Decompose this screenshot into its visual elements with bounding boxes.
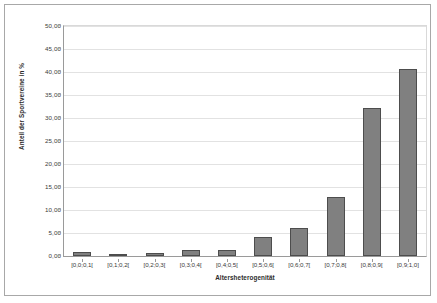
x-axis-tick-label: [0,5;0,6[ [245,261,281,268]
gridline [64,95,426,96]
bar [146,253,164,256]
bar [399,69,417,256]
y-axis-tick-mark [58,186,61,187]
bar [327,197,345,256]
x-axis-tick-label: [0,1;0,2[ [100,261,136,268]
y-axis-tick-label: 50,00 [9,22,61,29]
y-axis-tick-label: 40,00 [9,68,61,75]
y-axis-tick-label: 10,00 [9,206,61,213]
x-axis-tick-label: [0,8;0,9[ [354,261,390,268]
bar [182,250,200,256]
gridline [64,26,426,27]
y-axis-tick-mark [58,48,61,49]
x-axis-tick-label: [0,0;0,1[ [64,261,100,268]
y-axis-tick-mark [58,117,61,118]
x-axis-tick-label: [0,4;0,5[ [209,261,245,268]
y-axis-tick-label: 15,00 [9,183,61,190]
y-axis-tick-mark [58,232,61,233]
y-axis-tick-mark [58,94,61,95]
x-axis-tick-label: [0,6;0,7[ [281,261,317,268]
y-axis-tick-label: 30,00 [9,114,61,121]
y-axis-tick-label: 25,00 [9,137,61,144]
bar [218,250,236,256]
y-axis-tick-mark [58,255,61,256]
x-axis-tick-label: [0,3;0,4[ [173,261,209,268]
y-axis-tick-mark [58,25,61,26]
x-axis-labels: [0,0;0,1[[0,1;0,2[[0,2;0,3[[0,3;0,4[[0,4… [63,259,427,273]
y-axis-ticks: 0,005,0010,0015,0020,0025,0030,0035,0040… [5,25,61,256]
x-axis-title: Altersheterogenität [63,274,427,281]
y-axis-tick-mark [58,163,61,164]
bar [254,237,272,256]
plot-area [63,25,427,257]
chart-frame: Anteil der Sportvereine in % 0,005,0010,… [4,4,431,296]
y-axis-tick-label: 45,00 [9,45,61,52]
x-axis-tick-label: [0,2;0,3[ [136,261,172,268]
bar [73,252,91,256]
y-axis-tick-label: 20,00 [9,160,61,167]
x-axis-tick-label: [0,7;0,8[ [317,261,353,268]
gridline [64,49,426,50]
y-axis-tick-label: 5,00 [9,229,61,236]
y-axis-tick-mark [58,71,61,72]
bar [290,228,308,256]
x-axis-tick-label: [0,9;1,0] [390,261,426,268]
gridline [64,72,426,73]
y-axis-tick-mark [58,209,61,210]
y-axis-tick-label: 0,00 [9,252,61,259]
bar [109,254,127,256]
y-axis-tick-mark [58,140,61,141]
y-axis-tick-label: 35,00 [9,91,61,98]
bar [363,108,381,256]
